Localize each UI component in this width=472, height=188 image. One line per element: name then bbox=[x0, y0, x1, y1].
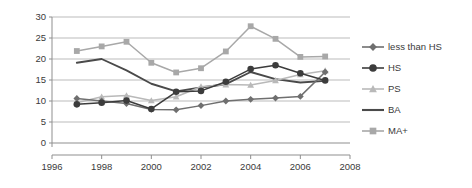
series-marker bbox=[272, 95, 279, 102]
series-marker bbox=[223, 78, 230, 85]
series-marker bbox=[124, 39, 130, 45]
series-marker bbox=[173, 106, 180, 113]
series-marker bbox=[248, 23, 254, 29]
line-chart: 051015202530 199619982000200220042006200… bbox=[0, 0, 472, 188]
y-tick-label: 15 bbox=[35, 74, 46, 85]
series-marker bbox=[98, 99, 105, 106]
legend-item-label: less than HS bbox=[388, 41, 442, 52]
legend-swatch-marker bbox=[369, 43, 377, 51]
chart-canvas: 051015202530 199619982000200220042006200… bbox=[0, 0, 472, 188]
series-marker bbox=[74, 48, 80, 54]
series-marker bbox=[222, 98, 229, 105]
series-marker bbox=[297, 54, 303, 60]
y-tick-label: 20 bbox=[35, 53, 46, 64]
x-axis-tick-labels: 1996199820002002200420062008 bbox=[41, 161, 360, 172]
x-tick-label: 2000 bbox=[141, 161, 162, 172]
series-marker bbox=[148, 60, 154, 66]
x-tick-label: 1998 bbox=[91, 161, 112, 172]
series-ps bbox=[73, 67, 328, 105]
series-marker bbox=[173, 88, 180, 95]
series-marker bbox=[247, 66, 254, 73]
series-marker bbox=[198, 88, 205, 95]
series-ma+ bbox=[74, 23, 328, 75]
x-tick-label: 2006 bbox=[290, 161, 311, 172]
series-marker bbox=[123, 97, 130, 104]
series-marker bbox=[273, 36, 279, 42]
series-marker bbox=[198, 102, 205, 109]
series-marker bbox=[173, 70, 179, 76]
legend-item-label: PS bbox=[388, 83, 401, 94]
series-marker bbox=[223, 49, 229, 55]
legend-item-less-than-hs[interactable]: less than HS bbox=[362, 41, 442, 52]
series-marker bbox=[99, 44, 105, 50]
series-marker bbox=[322, 54, 328, 60]
legend-item-hs[interactable]: HS bbox=[362, 62, 401, 73]
series-marker bbox=[297, 70, 304, 77]
legend-swatch-marker bbox=[370, 128, 377, 135]
y-tick-label: 25 bbox=[35, 32, 46, 43]
series-marker bbox=[148, 106, 155, 113]
series-marker bbox=[74, 101, 81, 108]
series-lines bbox=[73, 23, 328, 113]
x-tick-label: 1996 bbox=[41, 161, 62, 172]
y-tick-label: 5 bbox=[41, 116, 46, 127]
legend-item-ma+[interactable]: MA+ bbox=[362, 125, 408, 136]
x-tick-label: 2002 bbox=[190, 161, 211, 172]
x-axis bbox=[52, 155, 350, 159]
legend-item-ba[interactable]: BA bbox=[362, 104, 401, 115]
legend-item-label: HS bbox=[388, 62, 401, 73]
series-marker bbox=[247, 96, 254, 103]
series-marker bbox=[272, 62, 279, 69]
chart-legend: less than HSHSPSBAMA+ bbox=[362, 41, 442, 136]
y-tick-label: 30 bbox=[35, 11, 46, 22]
x-tick-label: 2004 bbox=[240, 161, 261, 172]
legend-swatch-marker bbox=[369, 64, 377, 72]
legend-item-ps[interactable]: PS bbox=[362, 83, 401, 94]
series-marker bbox=[198, 65, 204, 71]
x-tick-label: 2008 bbox=[339, 161, 360, 172]
y-tick-label: 10 bbox=[35, 95, 46, 106]
y-tick-label: 0 bbox=[41, 137, 46, 148]
y-axis-tick-labels: 051015202530 bbox=[35, 11, 46, 148]
legend-item-label: MA+ bbox=[388, 125, 408, 136]
legend-item-label: BA bbox=[388, 104, 401, 115]
series-marker bbox=[322, 77, 329, 84]
